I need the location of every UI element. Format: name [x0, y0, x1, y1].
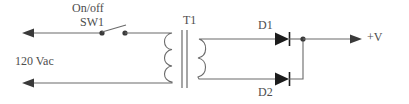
transformer-t1 — [164, 30, 212, 88]
transformer-primary-winding — [164, 33, 172, 83]
label-output-voltage: +V — [367, 31, 382, 43]
ac-input-bottom-lead — [22, 79, 164, 88]
schematic-canvas — [0, 0, 409, 104]
circuit-diagram: On/off SW1 T1 D1 D2 120 Vac +V — [0, 0, 409, 104]
label-t1: T1 — [183, 14, 196, 26]
label-sw1: SW1 — [80, 16, 104, 28]
d2-to-junction-lead — [289, 39, 303, 79]
label-d1: D1 — [258, 19, 273, 31]
label-on-off: On/off — [72, 2, 104, 14]
diode-d2-triangle-icon — [275, 73, 289, 86]
output-lead — [303, 35, 362, 44]
ac-input-top-arrow-icon — [22, 29, 34, 38]
label-source-voltage: 120 Vac — [15, 55, 54, 67]
ac-input-top-lead — [22, 29, 102, 38]
ac-input-bottom-arrow-icon — [22, 79, 34, 88]
output-arrow-icon — [350, 35, 362, 44]
switch-blade — [102, 25, 126, 32]
diode-d1 — [275, 32, 290, 46]
diode-d2 — [275, 72, 290, 86]
transformer-secondary-winding — [198, 39, 212, 79]
diode-d1-triangle-icon — [275, 33, 289, 46]
label-d2: D2 — [258, 86, 273, 98]
